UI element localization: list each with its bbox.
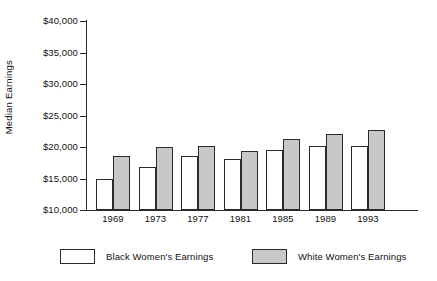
bar-1981-black-women [224, 159, 241, 210]
bar-1969-black-women [96, 179, 113, 211]
legend-label: Black Women's Earnings [106, 251, 213, 262]
y-axis-tick-label-wrap: $40,000 [0, 16, 78, 26]
y-axis-tick-label-wrap: $30,000 [0, 79, 78, 89]
bar-1989-white-women [326, 134, 343, 210]
y-axis-tick-label: $40,000 [2, 16, 78, 26]
bar-1989-black-women [309, 146, 326, 210]
x-axis-label-1993: 1993 [343, 213, 393, 224]
grouped-bar-chart: Median Earnings $10,000$15,000$20,000$25… [0, 0, 437, 281]
bars-layer [86, 0, 418, 211]
bar-1969-white-women [113, 156, 130, 210]
legend-label: White Women's Earnings [298, 251, 406, 262]
y-axis-tick-label-wrap: $20,000 [0, 142, 78, 152]
bar-1993-white-women [368, 130, 385, 210]
bar-group [224, 0, 258, 211]
bar-1973-white-women [156, 147, 173, 210]
y-axis-tick-label-wrap: $15,000 [0, 174, 78, 184]
y-axis-tick-label: $30,000 [2, 79, 78, 89]
bar-1985-black-women [266, 150, 283, 210]
bar-group [181, 0, 215, 211]
bar-1981-white-women [241, 151, 258, 210]
y-axis-tick-label-wrap: $10,000 [0, 205, 78, 215]
bar-1977-white-women [198, 146, 215, 210]
bar-1985-white-women [283, 139, 300, 210]
legend-entry-black-women: Black Women's Earnings [60, 246, 213, 266]
y-axis-title: Median Earnings [3, 60, 14, 134]
bar-group [309, 0, 343, 211]
legend-swatch-icon [60, 249, 95, 264]
bar-1993-black-women [351, 146, 368, 210]
bar-group [96, 0, 130, 211]
y-axis-tick-label-wrap: $25,000 [0, 111, 78, 121]
bar-group [351, 0, 385, 211]
y-axis-tick-label: $20,000 [2, 142, 78, 152]
y-axis-tick-label: $15,000 [2, 174, 78, 184]
bar-group [266, 0, 300, 211]
legend-entry-white-women: White Women's Earnings [252, 246, 406, 266]
bar-group [139, 0, 173, 211]
chart-legend: Black Women's EarningsWhite Women's Earn… [60, 246, 390, 268]
bar-1973-black-women [139, 167, 156, 210]
y-axis-tick-label: $35,000 [2, 48, 78, 58]
bar-1977-black-women [181, 156, 198, 210]
legend-swatch-icon [252, 249, 287, 264]
y-axis-tick-label: $10,000 [2, 205, 78, 215]
y-axis-tick-label: $25,000 [2, 111, 78, 121]
y-axis-tick-label-wrap: $35,000 [0, 48, 78, 58]
